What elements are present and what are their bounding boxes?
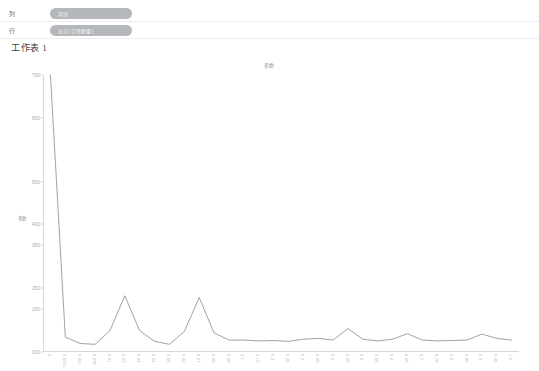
x-tick-label: 0.3: [300, 354, 305, 360]
x-tick-label: 0.35: [315, 354, 320, 363]
x-tick-label: 0.95: [493, 354, 498, 363]
shelf-pills-columns: 月份: [50, 8, 132, 19]
x-tick-label: 0.25: [285, 354, 290, 363]
x-tick-label: 0.02: [121, 354, 126, 363]
line-series: [0, 56, 539, 337]
x-tick-label: 0.04: [151, 354, 156, 363]
page-title: 工作表 1: [11, 41, 47, 54]
pill-columns-0[interactable]: 月份: [50, 8, 132, 19]
x-tick-label: 0.55: [374, 354, 379, 363]
x-tick-label: 0.9: [478, 354, 483, 360]
x-tick-label: 0.09: [226, 354, 231, 363]
x-axis-ticks: 00.00010.0010.0050.010.020.030.040.050.0…: [43, 352, 519, 371]
x-tick-label: 0: [47, 354, 52, 356]
shelf-pills-rows: 总计(订单数量): [50, 25, 132, 36]
x-tick-label: 0.6: [389, 354, 394, 360]
x-tick-label: 0.07: [196, 354, 201, 363]
chart-panel: 参数 参数 100200250350400500650750 00.00010.…: [0, 56, 539, 337]
x-tick-label: 0.5: [359, 354, 364, 360]
x-tick-label: 0.2: [270, 354, 275, 360]
x-tick-label: 0.001: [77, 354, 82, 365]
x-tick-label: 0.005: [92, 354, 97, 365]
x-tick-label: 0.08: [211, 354, 216, 363]
shelf-row-rows[interactable]: 行 总计(订单数量): [0, 22, 539, 39]
pill-rows-0[interactable]: 总计(订单数量): [50, 25, 132, 36]
x-tick-label: 0.65: [404, 354, 409, 363]
x-tick-label: 0.05: [166, 354, 171, 363]
y-tick-label: 100: [32, 350, 40, 355]
x-tick-label: 0.75: [434, 354, 439, 363]
x-tick-label: 0.7: [419, 354, 424, 360]
shelf-label-rows: 行: [0, 26, 50, 35]
x-tick-label: 0.15: [255, 354, 260, 363]
x-tick-label: 0.85: [464, 354, 469, 363]
x-tick-label: 0.4: [330, 354, 335, 360]
x-tick-label: 0.45: [345, 354, 350, 363]
shelf-row-columns[interactable]: 列 月份: [0, 5, 539, 22]
x-tick-label: 0.01: [107, 354, 112, 363]
x-tick-label: 0.1: [240, 354, 245, 360]
x-tick-label: 0.06: [181, 354, 186, 363]
shelf-label-columns: 列: [0, 9, 50, 18]
x-tick-label: 0.0001: [62, 354, 67, 367]
x-tick-label: 1.0: [508, 354, 513, 360]
shelf-area: 列 月份 行 总计(订单数量): [0, 0, 539, 39]
x-tick-label: 0.8: [449, 354, 454, 360]
x-tick-label: 0.03: [136, 354, 141, 363]
